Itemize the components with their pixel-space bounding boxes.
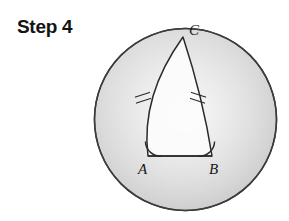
geometry-diagram: A B C	[0, 0, 289, 221]
vertex-label-C: C	[189, 22, 200, 38]
figure-container: Step 4	[0, 0, 289, 221]
vertex-label-B: B	[209, 161, 218, 177]
vertex-label-A: A	[137, 161, 148, 177]
